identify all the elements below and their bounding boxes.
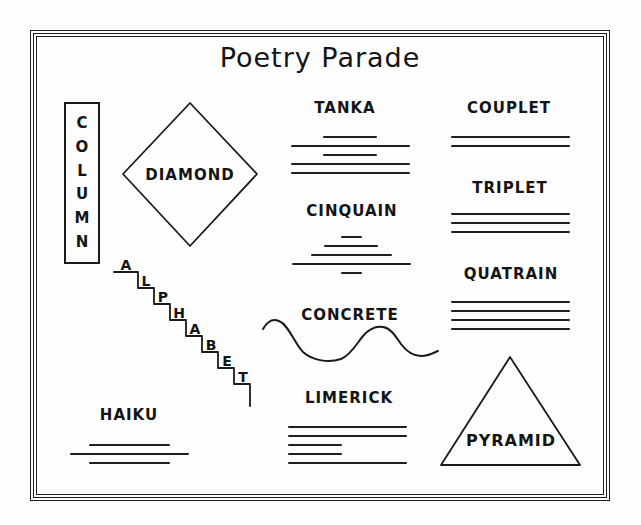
diamond-label: DIAMOND [145,166,234,184]
alphabet-letter: H [173,305,185,321]
poetry-parade-poster: Poetry Parade C O L U M N TANKA COUPLET … [0,0,641,525]
alphabet-staircase-shape [114,272,250,406]
shapes-layer: DIAMOND A L P H A B E T PYRAMID [0,0,641,525]
alphabet-letter: A [121,257,132,273]
concrete-wave-shape [263,320,438,361]
alphabet-letter: A [190,321,201,337]
alphabet-letter: E [222,353,232,369]
alphabet-letter: L [142,273,151,289]
alphabet-letter: T [238,369,248,385]
alphabet-letter: P [158,289,168,305]
alphabet-letter: B [206,337,217,353]
pyramid-label: PYRAMID [466,431,556,450]
